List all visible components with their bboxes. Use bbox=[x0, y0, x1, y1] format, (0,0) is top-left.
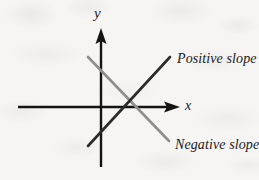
positive-slope-label: Positive slope bbox=[177, 52, 257, 66]
coordinate-plane-svg bbox=[0, 0, 259, 180]
y-axis-label: y bbox=[94, 6, 101, 21]
negative-slope-label: Negative slope bbox=[175, 138, 259, 152]
slope-diagram-figure: y x Positive slope Negative slope bbox=[0, 0, 259, 180]
x-axis-label: x bbox=[185, 99, 191, 113]
